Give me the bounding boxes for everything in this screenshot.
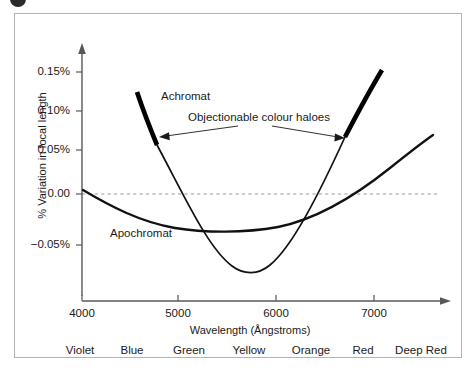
halo-callout-leader-left [166,126,238,136]
achromat-curve [157,137,345,273]
achromat-series-label: Achromat [161,91,210,103]
spectrum-band-blue: Blue [104,345,160,357]
x-tick-label-0: 4000 [52,308,112,320]
spectrum-band-red: Red [341,345,385,357]
halo-callout-arrowhead-left [159,132,170,140]
apochromat-series-label: Apochromat [110,228,172,240]
x-tick-label-1: 5000 [148,308,208,320]
x-tick-label-2: 6000 [246,308,306,320]
objectionable-colour-haloes-label: Objectionable colour haloes [188,112,330,124]
x-axis-title: Wavelength (Ångstroms) [160,325,340,336]
x-axis-arrowhead [440,297,451,304]
achromat-halo-segment-left [137,92,157,145]
spectrum-band-yellow: Yellow [218,345,280,357]
y-tick-label-4: −0.05% [4,239,70,251]
spectrum-band-green: Green [158,345,220,357]
halo-callout-leader-right [272,126,338,137]
spectrum-band-deep-red: Deep Red [382,345,460,357]
x-tick-label-3: 7000 [344,308,404,320]
spectrum-band-orange: Orange [278,345,344,357]
y-axis-title: % Variation in focal length [37,81,48,231]
y-tick-label-0: 0.15% [8,66,70,78]
achromat-halo-segment-right [345,70,382,137]
y-axis-arrowhead [78,43,86,54]
spectrum-band-violet: Violet [48,345,112,357]
apochromat-curve [83,135,433,232]
